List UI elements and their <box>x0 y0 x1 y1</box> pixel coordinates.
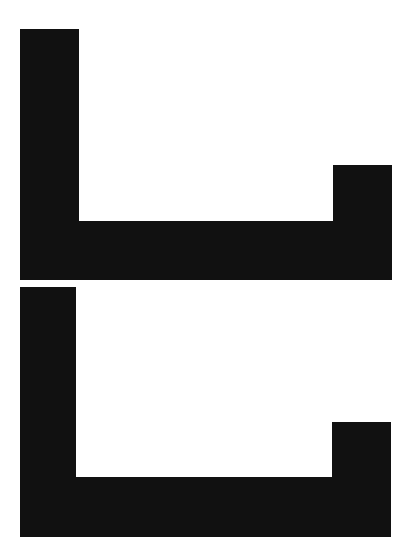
diagram-canvas <box>0 0 413 558</box>
lower-shape <box>20 287 391 537</box>
shapes-svg <box>0 0 413 558</box>
upper-shape <box>20 29 392 280</box>
